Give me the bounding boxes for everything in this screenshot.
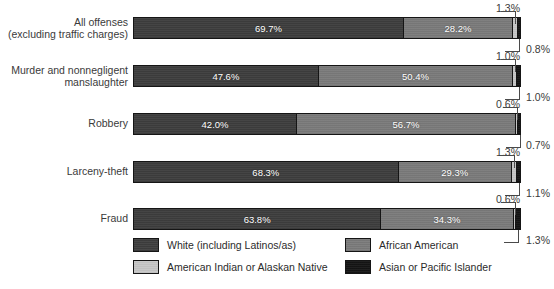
row-category-label: Murder and nonnegligent manslaughter: [0, 65, 128, 88]
segment-value-label: 34.3%: [433, 214, 460, 225]
bar-segment-1: 29.3%: [398, 162, 511, 182]
bar-segment-3: 1.0%: [516, 66, 520, 86]
bar-segment-1: 56.7%: [296, 114, 515, 134]
chart-row: Murder and nonnegligent manslaughter47.6…: [0, 65, 554, 87]
row-category-label: Robbery: [0, 118, 128, 130]
bar-segment-0: 42.0%: [134, 114, 296, 134]
row-category-label: Larceny-theft: [0, 166, 128, 178]
legend-item: African American: [345, 238, 458, 252]
chart-row: Larceny-theft68.3%29.3%1.3%1.1%1.3%1.1%: [0, 161, 554, 183]
stacked-bar: 69.7%28.2%1.3%0.8%: [133, 17, 521, 39]
segment-value-label: 50.4%: [402, 71, 429, 82]
legend-swatch-icon: [345, 238, 371, 252]
bar-segment-1: 28.2%: [403, 18, 512, 38]
row-category-label: All offenses (excluding traffic charges): [0, 17, 128, 40]
callout-american-indian: 0.6%: [496, 193, 520, 205]
callout-american-indian: 0.6%: [496, 98, 520, 110]
segment-value-label: 68.3%: [252, 167, 279, 178]
bar-segment-0: 47.6%: [134, 66, 318, 86]
bar-segment-3: 1.1%: [516, 162, 520, 182]
callout-asian-pacific: 0.7%: [526, 139, 550, 151]
stacked-bar: 42.0%56.7%0.6%0.7%: [133, 113, 521, 135]
segment-value-label: 42.0%: [202, 119, 229, 130]
page-bottom-text-fragment: [0, 282, 554, 289]
chart-row: Fraud63.8%34.3%0.6%1.3%0.6%1.3%: [0, 208, 554, 230]
chart-legend: White (including Latinos/as)African Amer…: [133, 238, 533, 280]
bar-segment-0: 63.8%: [134, 209, 380, 229]
callout-asian-pacific: 1.0%: [526, 91, 550, 103]
bar-segment-3: 1.3%: [515, 209, 520, 229]
legend-swatch-icon: [133, 260, 159, 274]
legend-swatch-icon: [345, 260, 371, 274]
stacked-bar: 47.6%50.4%1.0%1.0%: [133, 65, 521, 87]
segment-value-label: 47.6%: [212, 71, 239, 82]
chart-row: All offenses (excluding traffic charges)…: [0, 17, 554, 39]
callout-asian-pacific: 0.8%: [526, 43, 550, 55]
bar-segment-1: 34.3%: [380, 209, 512, 229]
bar-segment-0: 68.3%: [134, 162, 398, 182]
legend-item: White (including Latinos/as): [133, 238, 296, 252]
bar-segment-0: 69.7%: [134, 18, 403, 38]
bar-segment-3: 0.7%: [517, 114, 520, 134]
callout-american-indian: 1.3%: [496, 146, 520, 158]
legend-item-label: White (including Latinos/as): [167, 239, 296, 251]
stacked-bar: 68.3%29.3%1.3%1.1%: [133, 161, 521, 183]
callout-asian-pacific: 1.1%: [526, 187, 550, 199]
segment-value-label: 69.7%: [255, 23, 282, 34]
segment-value-label: 56.7%: [393, 119, 420, 130]
segment-value-label: 28.2%: [444, 23, 471, 34]
segment-value-label: 29.3%: [441, 167, 468, 178]
legend-swatch-icon: [133, 238, 159, 252]
callout-american-indian: 1.3%: [496, 2, 520, 14]
legend-item-label: Asian or Pacific Islander: [379, 261, 492, 273]
legend-item-label: African American: [379, 239, 458, 251]
row-category-label: Fraud: [0, 213, 128, 225]
segment-value-label: 63.8%: [244, 214, 271, 225]
legend-item-label: American Indian or Alaskan Native: [167, 261, 328, 273]
stacked-bar: 63.8%34.3%0.6%1.3%: [133, 208, 521, 230]
chart-row: Robbery42.0%56.7%0.6%0.7%0.6%0.7%: [0, 113, 554, 135]
stacked-bar-chart: All offenses (excluding traffic charges)…: [0, 0, 554, 289]
bar-segment-1: 50.4%: [318, 66, 513, 86]
bar-segment-3: 0.8%: [517, 18, 520, 38]
callout-american-indian: 1.0%: [496, 50, 520, 62]
legend-item: Asian or Pacific Islander: [345, 260, 492, 274]
legend-item: American Indian or Alaskan Native: [133, 260, 328, 274]
